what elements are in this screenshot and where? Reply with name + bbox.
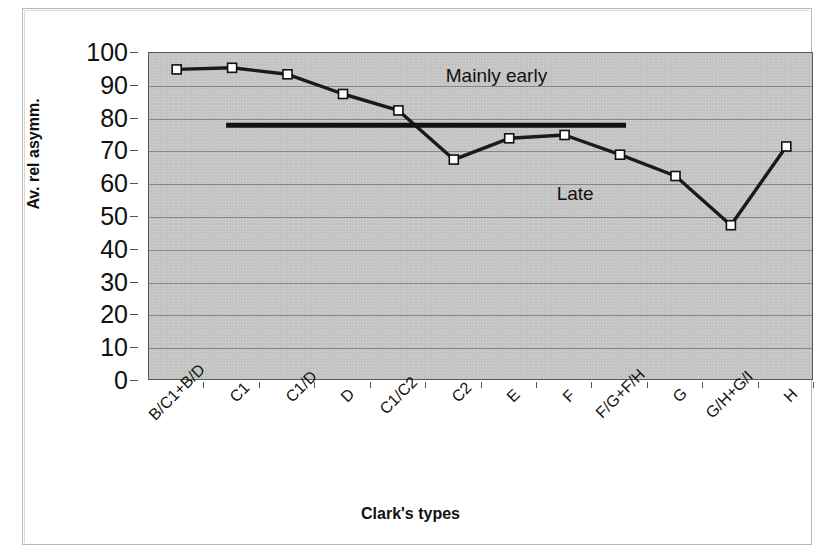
x-axis-tick-mark bbox=[813, 382, 814, 388]
y-axis-tick-mark bbox=[130, 314, 138, 315]
y-axis-tick-mark bbox=[130, 183, 138, 184]
x-axis-tick-mark bbox=[591, 382, 592, 388]
x-axis-tick-label: F bbox=[560, 387, 578, 405]
y-axis-tick-label: 100 bbox=[86, 40, 128, 65]
x-axis-tick-label: D bbox=[338, 386, 357, 405]
x-axis-tick-label: G bbox=[670, 385, 690, 405]
y-axis-tick-label: 40 bbox=[100, 236, 128, 261]
plot-annotation: Mainly early bbox=[446, 66, 547, 85]
y-axis-tick-mark bbox=[130, 216, 138, 217]
data-point-marker bbox=[449, 155, 458, 164]
x-axis-tick-mark bbox=[647, 382, 648, 388]
y-axis-tick-mark bbox=[130, 282, 138, 283]
data-point-marker bbox=[394, 106, 403, 115]
y-axis-tick-label: 90 bbox=[100, 72, 128, 97]
y-axis-tick-label: 0 bbox=[114, 368, 128, 393]
y-axis-tick-label: 60 bbox=[100, 171, 128, 196]
series-line bbox=[177, 68, 787, 225]
y-axis-tick-mark bbox=[130, 118, 138, 119]
y-axis: 0102030405060708090100 bbox=[72, 52, 138, 380]
data-point-marker bbox=[339, 90, 348, 99]
y-axis-tick-label: 20 bbox=[100, 302, 128, 327]
x-axis-tick-mark bbox=[702, 382, 703, 388]
x-axis-tick-label: E bbox=[504, 386, 523, 405]
x-axis-tick-label: H bbox=[781, 386, 800, 405]
data-series-layer bbox=[149, 53, 813, 380]
data-point-marker bbox=[671, 172, 680, 181]
x-axis-tick-mark bbox=[203, 382, 204, 388]
y-axis-tick-label: 10 bbox=[100, 335, 128, 360]
y-axis-tick-mark bbox=[130, 150, 138, 151]
plot-annotation: Late bbox=[557, 184, 594, 203]
x-axis-tick-label: C1 bbox=[227, 380, 253, 406]
x-axis-title: Clark's types bbox=[0, 505, 821, 523]
plot-area: Mainly earlyLate bbox=[148, 52, 813, 380]
data-point-marker bbox=[782, 142, 791, 151]
y-axis-tick-mark bbox=[130, 347, 138, 348]
y-axis-tick-label: 30 bbox=[100, 269, 128, 294]
y-axis-tick-label: 70 bbox=[100, 138, 128, 163]
x-axis-tick-mark bbox=[536, 382, 537, 388]
chart-figure: 0102030405060708090100 Av. rel asymm. Ma… bbox=[0, 0, 821, 558]
data-point-marker bbox=[560, 131, 569, 140]
data-point-marker bbox=[726, 221, 735, 230]
x-axis-tick-mark bbox=[425, 382, 426, 388]
data-point-marker bbox=[616, 150, 625, 159]
data-point-marker bbox=[505, 134, 514, 143]
data-point-marker bbox=[283, 70, 292, 79]
x-axis-tick-mark bbox=[259, 382, 260, 388]
x-axis-tick-label: C2 bbox=[449, 380, 475, 406]
y-axis-tick-label: 80 bbox=[100, 105, 128, 130]
data-point-marker bbox=[228, 63, 237, 72]
x-axis-tick-mark bbox=[370, 382, 371, 388]
data-point-marker bbox=[172, 65, 181, 74]
y-axis-tick-mark bbox=[130, 52, 138, 53]
y-axis-tick-mark bbox=[130, 380, 138, 381]
y-axis-title: Av. rel asymm. bbox=[25, 54, 43, 254]
x-axis-tick-mark bbox=[481, 382, 482, 388]
y-axis-tick-mark bbox=[130, 249, 138, 250]
x-axis: B/C1+B/DC1C1/DDC1/C2C2EFF/G+F/HGG/H+G/IH bbox=[148, 382, 813, 502]
y-axis-tick-label: 50 bbox=[100, 204, 128, 229]
y-axis-tick-mark bbox=[130, 85, 138, 86]
x-axis-tick-mark bbox=[758, 382, 759, 388]
